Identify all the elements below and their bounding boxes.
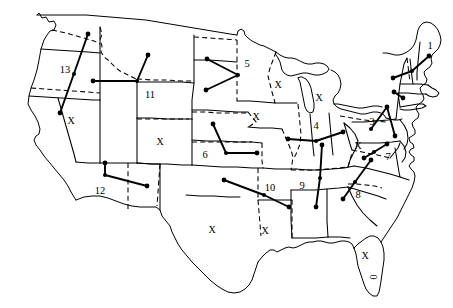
vector-3-endpoint-dot-1 bbox=[385, 105, 390, 110]
state-borders-solid-group bbox=[29, 27, 428, 238]
vector-5-vertex-dot bbox=[236, 73, 240, 77]
vector-8-endpoint-dot-1 bbox=[369, 158, 374, 163]
vector-11-line bbox=[93, 55, 148, 81]
vector-6-endpoint-dot-2 bbox=[255, 151, 260, 156]
lake-superior-outline bbox=[276, 52, 329, 76]
vector-12 bbox=[103, 161, 150, 189]
nj-outline-detail bbox=[400, 120, 408, 149]
border-nd-sd bbox=[194, 60, 237, 62]
border-ca-east bbox=[58, 98, 76, 162]
us-map-figure: 1345678910111213 XXXXXXXXX0 bbox=[0, 0, 453, 308]
vector-10-vertex-dot bbox=[262, 193, 266, 197]
vector-11-endpoint-dot-2 bbox=[146, 53, 151, 58]
vector-9-endpoint-dot-2 bbox=[314, 205, 319, 210]
x-marker-iowa: X bbox=[252, 111, 260, 122]
region-label-9: 9 bbox=[299, 180, 304, 191]
x-marker-utah-colorado: X bbox=[156, 136, 164, 147]
lake-erie-south-outline bbox=[334, 104, 382, 108]
de-outline-detail bbox=[400, 141, 406, 162]
border-wy-east bbox=[192, 35, 194, 119]
region-label-12: 12 bbox=[95, 185, 106, 196]
x-marker-wisconsin: X bbox=[274, 79, 282, 90]
vector-1-endpoint-dot-2 bbox=[391, 76, 396, 81]
vector-4 bbox=[286, 130, 346, 143]
border-dashed-or-nv bbox=[31, 88, 100, 93]
region-label-8: 8 bbox=[355, 189, 360, 200]
border-mn-ia bbox=[237, 101, 275, 103]
region-label-4: 4 bbox=[313, 120, 319, 131]
x-marker-texas: X bbox=[208, 224, 216, 235]
florida-outline bbox=[354, 236, 384, 296]
vector-2-endpoint-dot-2 bbox=[401, 96, 406, 101]
vector-1-vertex-dot bbox=[410, 69, 414, 73]
vector-6-endpoint-dot-1 bbox=[211, 122, 216, 127]
border-nv-az bbox=[76, 162, 100, 163]
x-marker-florida: X bbox=[361, 250, 369, 261]
vector-3-endpoint-dot-2 bbox=[393, 134, 398, 139]
great-lakes-group bbox=[276, 52, 402, 120]
vector-4-vertex-dot bbox=[314, 139, 318, 143]
vector-3-vertex-dot bbox=[369, 127, 373, 131]
border-dashed-vt-ny bbox=[407, 58, 410, 82]
vector-12-vertex-dot bbox=[103, 173, 107, 177]
region-label-13: 13 bbox=[60, 64, 71, 75]
vector-11-vertex-dot bbox=[135, 79, 139, 83]
vector-10-endpoint-dot-1 bbox=[222, 178, 227, 183]
border-ga-sc bbox=[348, 187, 377, 226]
vector-12-endpoint-dot-2 bbox=[145, 184, 150, 189]
border-nc-sc bbox=[348, 187, 386, 199]
cape-cod-detail bbox=[426, 85, 439, 97]
vector-9 bbox=[314, 143, 325, 210]
vector-4-endpoint-dot-2 bbox=[341, 130, 346, 135]
vector-7-endpoint-dot-2 bbox=[362, 156, 367, 161]
vector-13-endpoint-dot-1 bbox=[86, 32, 91, 37]
border-dashed-il-dashed bbox=[294, 104, 301, 158]
vector-8-endpoint-dot-2 bbox=[341, 197, 346, 202]
vector-1-endpoint-dot-1 bbox=[427, 54, 432, 59]
vector-10 bbox=[222, 178, 292, 210]
gulf-coast-outline bbox=[258, 241, 354, 262]
vector-7-vertex-dot bbox=[372, 150, 376, 154]
border-ks-ok bbox=[192, 165, 263, 168]
vector-7-endpoint-dot-1 bbox=[385, 142, 390, 147]
vector-13-vertex-dot bbox=[72, 72, 76, 76]
border-ia-mo bbox=[248, 127, 282, 129]
x-marker-west-virginia: X bbox=[354, 140, 362, 151]
lake-michigan-outline bbox=[298, 77, 314, 113]
border-in-oh bbox=[329, 113, 333, 155]
border-ok-tx bbox=[186, 195, 240, 197]
us-map-svg: 1345678910111213 XXXXXXXXX0 bbox=[0, 0, 453, 308]
vector-6 bbox=[211, 122, 260, 156]
region-label-7: 7 bbox=[385, 151, 390, 162]
vector-12-endpoint-dot-1 bbox=[103, 161, 108, 166]
vector-5-endpoint-dot-1 bbox=[205, 57, 210, 62]
vector-10-endpoint-dot-2 bbox=[287, 205, 292, 210]
chesapeake-detail bbox=[395, 148, 400, 177]
border-co-nm bbox=[137, 163, 192, 165]
region-label-11: 11 bbox=[145, 89, 155, 100]
border-oh-wv bbox=[344, 123, 352, 150]
vector-5-line bbox=[206, 59, 238, 90]
border-ma-north bbox=[400, 84, 428, 85]
x-marker-nevada: X bbox=[67, 115, 75, 126]
border-al-ga bbox=[327, 189, 328, 237]
x-marker-michigan: X bbox=[315, 92, 323, 103]
border-dashed-nd-mn bbox=[194, 37, 237, 40]
vector-9-line bbox=[316, 145, 322, 207]
region-label-10: 10 bbox=[265, 182, 276, 193]
vector-8-vertex-dot bbox=[353, 180, 357, 184]
vector-2-endpoint-dot-1 bbox=[392, 90, 397, 95]
border-dashed-wi-mn bbox=[268, 52, 276, 103]
border-ms-al-south bbox=[292, 237, 328, 238]
northern-border-outline bbox=[37, 15, 237, 35]
mid-atlantic-detail-group bbox=[344, 85, 439, 177]
southern-border-outline bbox=[76, 196, 258, 293]
long-island-detail bbox=[400, 104, 426, 110]
vector-9-endpoint-dot-1 bbox=[320, 143, 325, 148]
region-label-3: 3 bbox=[369, 116, 374, 127]
vector-9-vertex-dot bbox=[318, 176, 322, 180]
vector-5-endpoint-dot-2 bbox=[204, 88, 209, 93]
border-mt-wy bbox=[137, 82, 194, 83]
border-dashed-mt-east bbox=[137, 79, 194, 81]
vector-6-line bbox=[213, 124, 257, 153]
